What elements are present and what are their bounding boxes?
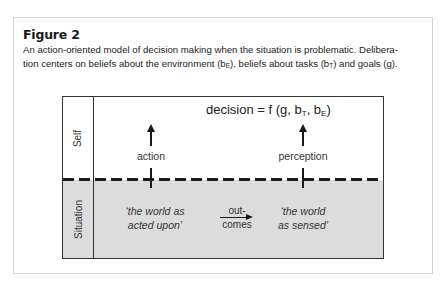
decision-formula: decision = f (g, bT, bE) [206,102,331,118]
figure-title: Figure 2 [23,27,80,42]
outcomes-arrow-shaft [220,217,248,218]
caption-text: ), beliefs about tasks (b [230,58,329,69]
perception-label: perception [278,150,327,162]
formula-text: ) [326,102,330,117]
caption-text: tion centers on beliefs about the enviro… [23,58,226,69]
world-acted-upon: ‘the world as acted upon’ [126,204,185,232]
caption-text: ) and goals (g). [333,58,398,69]
perception-tick [302,168,304,188]
caption-line-2: tion centers on beliefs about the enviro… [23,57,429,73]
world-sensed-line-2: as sensed’ [278,218,328,232]
world-acted-line-2: acted upon’ [126,218,185,232]
row-label-self: Self [63,97,93,179]
outcomes-arrow-right-icon [246,214,253,220]
self-situation-boundary [63,178,383,181]
decision-model-diagram: Self Situation [62,96,384,259]
action-tick [150,168,152,188]
world-as-sensed: ‘the world as sensed’ [278,204,328,232]
figure-caption: An action-oriented model of decision mak… [23,43,429,73]
action-label: action [137,150,165,162]
situation-label: Situation [73,200,84,239]
outcomes-line-2: comes [219,218,255,232]
row-label-situation: Situation [63,181,93,258]
world-sensed-line-1: ‘the world [278,204,328,218]
formula-text: , b [307,102,321,117]
formula-text: decision = f (g, b [206,102,302,117]
world-acted-line-1: ‘the world as [126,204,185,218]
perception-arrow-shaft [302,131,304,146]
self-label: Self [72,129,83,146]
caption-line-1: An action-oriented model of decision mak… [23,43,429,57]
action-arrow-shaft [150,131,152,146]
